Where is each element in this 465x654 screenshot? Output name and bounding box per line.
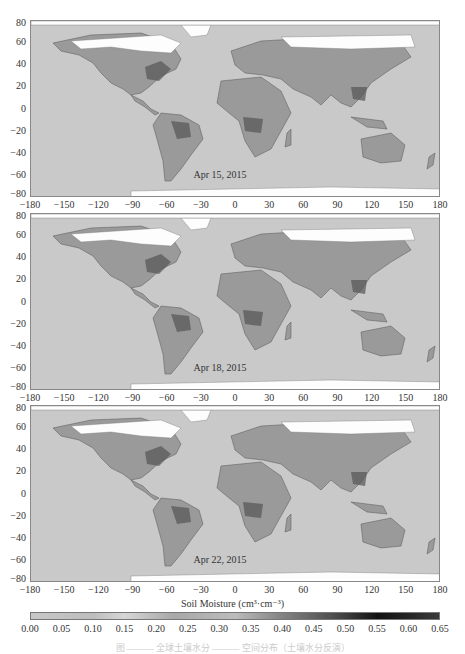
x-tick-label: −120 xyxy=(88,200,109,210)
x-tick-label: 120 xyxy=(364,200,379,210)
colorbar-tick-label: 0.25 xyxy=(179,624,197,634)
x-tick-label: 90 xyxy=(333,393,343,403)
y-tick-label: 0 xyxy=(0,489,26,499)
x-tick-label: 60 xyxy=(298,393,308,403)
y-tick-label: 80 xyxy=(0,403,26,413)
y-tick-label: 60 xyxy=(0,37,26,47)
y-tick-label: 0 xyxy=(0,104,26,114)
x-tick-label: −120 xyxy=(88,585,109,595)
y-tick-label: 20 xyxy=(0,274,26,284)
colorbar-tick-label: 0.45 xyxy=(305,624,323,634)
x-tick-label: 90 xyxy=(333,200,343,210)
y-tick-label: −20 xyxy=(0,511,26,521)
x-tick-label: 0 xyxy=(233,393,238,403)
x-tick-label: −90 xyxy=(125,585,141,595)
map-date-label: Apr 22, 2015 xyxy=(193,554,246,565)
x-tick-label: −60 xyxy=(159,393,175,403)
y-tick-label: −80 xyxy=(0,189,26,199)
x-tick-label: −30 xyxy=(193,585,209,595)
colorbar-tick-label: 0.35 xyxy=(242,624,260,634)
x-tick-label: 180 xyxy=(433,200,448,210)
colorbar-tick-label: 0.65 xyxy=(431,624,449,634)
x-tick-label: −60 xyxy=(159,585,175,595)
x-axis-ticks: −180−150−120−90−60−300306090120150180 xyxy=(30,393,440,405)
colorbar-tick-label: 0.55 xyxy=(368,624,386,634)
map-panel-1: Apr 15, 2015 806040200−20−40−60−80−180−1… xyxy=(30,20,440,197)
x-tick-label: 0 xyxy=(233,200,238,210)
y-tick-label: 80 xyxy=(0,211,26,221)
colorbar-title: Soil Moisture (cm³·cm⁻³) xyxy=(0,598,465,609)
x-tick-label: −150 xyxy=(54,585,75,595)
colorbar-tick-label: 0.30 xyxy=(210,624,228,634)
y-tick-label: 40 xyxy=(0,444,26,454)
x-tick-label: 60 xyxy=(298,200,308,210)
x-tick-label: −30 xyxy=(193,200,209,210)
map-date-label: Apr 15, 2015 xyxy=(193,169,246,180)
y-tick-label: 40 xyxy=(0,252,26,262)
x-tick-label: −90 xyxy=(125,200,141,210)
map-panel-3: Apr 22, 2015 806040200−20−40−60−80−180−1… xyxy=(30,405,440,582)
y-tick-label: −40 xyxy=(0,533,26,543)
x-tick-label: −180 xyxy=(20,585,41,595)
colorbar-tick-label: 0.15 xyxy=(116,624,134,634)
y-tick-label: −80 xyxy=(0,574,26,584)
x-tick-label: 150 xyxy=(398,393,413,403)
colorbar-tick-label: 0.20 xyxy=(147,624,165,634)
y-tick-label: −80 xyxy=(0,382,26,392)
y-tick-label: 20 xyxy=(0,466,26,476)
y-tick-label: 20 xyxy=(0,81,26,91)
x-tick-label: −60 xyxy=(159,200,175,210)
x-tick-label: 180 xyxy=(433,585,448,595)
colorbar-tick-label: 0.60 xyxy=(400,624,418,634)
colorbar-tick-label: 0.10 xyxy=(84,624,102,634)
x-tick-label: −150 xyxy=(54,393,75,403)
x-tick-label: 120 xyxy=(364,393,379,403)
colorbar-ticks: 0.000.050.100.150.200.250.300.350.400.45… xyxy=(30,624,440,636)
x-tick-label: 30 xyxy=(264,200,274,210)
colorbar-tick-label: 0.00 xyxy=(21,624,39,634)
x-tick-label: 180 xyxy=(433,393,448,403)
x-tick-label: 0 xyxy=(233,585,238,595)
x-tick-label: 150 xyxy=(398,200,413,210)
y-tick-label: 60 xyxy=(0,230,26,240)
x-tick-label: 150 xyxy=(398,585,413,595)
y-tick-label: 60 xyxy=(0,422,26,432)
x-tick-label: 30 xyxy=(264,585,274,595)
x-tick-label: −120 xyxy=(88,393,109,403)
x-tick-label: 30 xyxy=(264,393,274,403)
x-tick-label: 90 xyxy=(333,585,343,595)
colorbar-tick-label: 0.05 xyxy=(53,624,71,634)
y-tick-label: 0 xyxy=(0,297,26,307)
y-tick-label: −40 xyxy=(0,148,26,158)
y-tick-label: −60 xyxy=(0,555,26,565)
x-axis-ticks: −180−150−120−90−60−300306090120150180 xyxy=(30,585,440,597)
y-tick-label: −40 xyxy=(0,341,26,351)
figure-caption: 图 ——— 全球土壤水分 ——— 空间分布（土壤水分反演） xyxy=(0,641,465,654)
y-tick-label: −60 xyxy=(0,170,26,180)
x-tick-label: −30 xyxy=(193,393,209,403)
y-tick-label: −20 xyxy=(0,319,26,329)
x-tick-label: −90 xyxy=(125,393,141,403)
colorbar xyxy=(30,612,440,620)
colorbar-tick-label: 0.50 xyxy=(337,624,355,634)
x-tick-label: −150 xyxy=(54,200,75,210)
x-axis-ticks: −180−150−120−90−60−300306090120150180 xyxy=(30,200,440,212)
x-tick-label: 60 xyxy=(298,585,308,595)
map-panel-2: Apr 18, 2015 806040200−20−40−60−80−180−1… xyxy=(30,213,440,390)
y-tick-label: −20 xyxy=(0,126,26,136)
colorbar-tick-label: 0.40 xyxy=(274,624,292,634)
x-tick-label: −180 xyxy=(20,200,41,210)
map-date-label: Apr 18, 2015 xyxy=(193,362,246,373)
x-tick-label: 120 xyxy=(364,585,379,595)
y-tick-label: 40 xyxy=(0,59,26,69)
y-tick-label: 80 xyxy=(0,18,26,28)
y-tick-label: −60 xyxy=(0,363,26,373)
